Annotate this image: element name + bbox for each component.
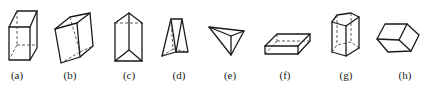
shape-f-slab-icon	[265, 34, 310, 54]
shape-h-parallelepiped-icon	[377, 24, 419, 52]
polyhedra-figure: (a) (b) (c) (d) (e)	[0, 0, 428, 87]
shape-b-oblique-prism-icon	[55, 13, 93, 63]
label-e: (e)	[224, 69, 237, 82]
label-g: (g)	[340, 69, 353, 82]
shape-d-wedge-prism-icon	[162, 19, 188, 56]
label-a: (a)	[11, 69, 24, 82]
label-c: (c)	[123, 69, 136, 82]
label-h: (h)	[399, 69, 412, 82]
shape-e-tetrahedron-icon	[209, 27, 244, 55]
shape-c-triangular-prism-icon	[115, 13, 142, 61]
shape-a-cuboid-icon	[9, 11, 37, 60]
label-b: (b)	[64, 69, 77, 82]
shape-g-pentagonal-prism-icon	[332, 13, 359, 56]
label-d: (d)	[173, 69, 186, 82]
label-f: (f)	[280, 69, 291, 82]
